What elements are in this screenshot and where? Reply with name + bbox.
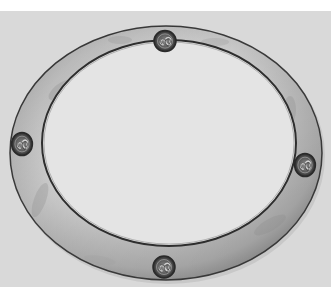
knot-ornament-right-icon: [295, 153, 316, 176]
knot-ornament-left-icon: [12, 132, 33, 155]
knot-ornament-top-icon: [154, 31, 176, 52]
knot-ornament-bottom-icon: [153, 256, 175, 278]
photograph: [0, 0, 331, 295]
mirror-glass: [42, 40, 296, 246]
